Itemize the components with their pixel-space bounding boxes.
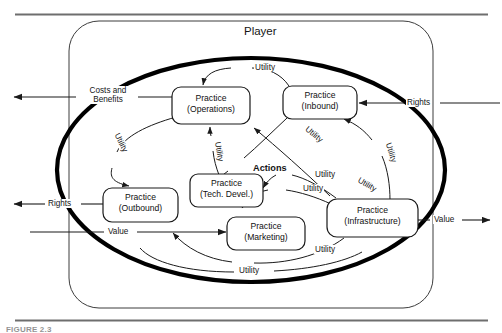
flow-label-costs-benefits: Costs and Benefits [78, 86, 138, 104]
node-label-outbound-line1: Practice [103, 192, 178, 203]
arc-utility-ops-up-b [210, 127, 211, 136]
flow-label-rights-right: Rights [406, 98, 431, 107]
node-label-marketing-line1: Practice [227, 221, 305, 232]
flow-label-value-right: Value [433, 215, 455, 224]
arc-utility-outbound-b [173, 233, 232, 262]
player-boundary [69, 21, 433, 308]
edge-label-utility-top: Utility [254, 63, 276, 72]
node-label-outbound-line2: (Outbound) [103, 203, 178, 214]
edge-label-utility-mid-right: Utility [314, 170, 336, 179]
edge-label-utility-marketing-arc: Utility [314, 245, 336, 254]
flow-label-costs-benefits-line2: Benefits [79, 95, 137, 104]
arc-utility-inbound-right-b [344, 119, 372, 140]
node-label-infrastructure-line2: (Infrastructure) [327, 216, 418, 227]
node-label-inbound: Practice (Inbound) [283, 90, 357, 111]
node-label-infrastructure: Practice (Infrastructure) [327, 205, 418, 226]
page-title: Player [243, 25, 278, 38]
group-label-actions: Actions [252, 163, 288, 173]
arc-utility-top-b [203, 68, 231, 85]
arc-utility-tech-b [263, 175, 276, 188]
arc-utility-left-b [111, 168, 129, 186]
flow-label-rights-left: Rights [47, 199, 72, 208]
flow-label-value-left: Value [107, 227, 129, 236]
node-label-infrastructure-line1: Practice [327, 205, 418, 216]
node-label-marketing: Practice (Marketing) [227, 221, 305, 242]
edge-label-utility-bottom: Utility [238, 266, 260, 275]
edge-label-utility-mid-right-2: Utility [302, 184, 324, 193]
flow-label-costs-benefits-line1: Costs and [79, 86, 137, 95]
node-label-inbound-line1: Practice [283, 90, 357, 101]
figure-container: Player Practice (Operations) Practice (I… [0, 0, 502, 333]
node-label-tech-devel-line1: Practice [189, 178, 264, 189]
diagram-canvas [0, 0, 502, 333]
node-label-operations-line2: (Operations) [172, 104, 250, 115]
node-label-inbound-line2: (Inbound) [283, 101, 357, 112]
figure-caption: FIGURE 2.3 [6, 325, 52, 333]
node-label-tech-devel-line2: (Tech. Devel.) [189, 189, 264, 200]
node-label-operations: Practice (Operations) [172, 93, 250, 114]
node-label-tech-devel: Practice (Tech. Devel.) [189, 178, 264, 199]
node-label-operations-line1: Practice [172, 93, 250, 104]
node-label-outbound: Practice (Outbound) [103, 192, 178, 213]
node-label-marketing-line2: (Marketing) [227, 232, 305, 243]
